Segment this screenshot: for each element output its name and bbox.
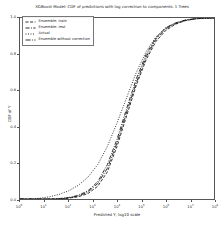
y-tick-label: 0.6	[10, 88, 16, 92]
x-tick-label: 106	[163, 204, 169, 209]
legend-label: Ensemble: train	[39, 20, 67, 24]
legend-line-swatch	[25, 37, 36, 43]
x-tick-label: 108	[212, 204, 218, 209]
chart-legend: Ensemble: trainEnsemble: testActualEnsem…	[22, 16, 94, 46]
y-tick-label: 0.0	[10, 198, 16, 202]
y-tick-label: 0.2	[10, 161, 16, 165]
x-tick-mark	[68, 200, 69, 202]
x-tick-label: 101	[40, 204, 46, 209]
y-tick-label: 0.4	[10, 125, 16, 129]
legend-label: Ensemble without correction	[39, 38, 90, 42]
x-tick-mark	[215, 200, 216, 202]
x-tick-label: 104	[114, 204, 120, 209]
x-tick-mark	[44, 200, 45, 202]
x-tick-mark	[19, 200, 20, 202]
x-axis-label: Predicted Y, log10 scale	[19, 212, 215, 217]
x-tick-mark	[117, 200, 118, 202]
legend-item[interactable]: Ensemble without correction	[25, 37, 90, 43]
x-tick-label: 107	[187, 204, 193, 209]
x-tick-mark	[93, 200, 94, 202]
chart-figure: XGBoost Model: CDF of predictions with l…	[0, 0, 224, 227]
x-tick-mark	[166, 200, 167, 202]
x-tick-label: 102	[65, 204, 71, 209]
legend-label: Actual	[39, 32, 50, 36]
x-axis-ticks: 100101102103104105106107108	[19, 200, 215, 212]
x-tick-label: 100	[16, 204, 22, 209]
x-tick-label: 105	[138, 204, 144, 209]
x-tick-mark	[191, 200, 192, 202]
chart-title: XGBoost Model: CDF of predictions with l…	[0, 5, 224, 9]
x-tick-mark	[142, 200, 143, 202]
y-tick-label: 1.0	[10, 15, 16, 19]
legend-label: Ensemble: test	[39, 26, 66, 30]
y-axis-ticks: 0.00.20.40.60.81.0	[0, 17, 19, 200]
x-tick-label: 103	[89, 204, 95, 209]
y-tick-label: 0.8	[10, 52, 16, 56]
